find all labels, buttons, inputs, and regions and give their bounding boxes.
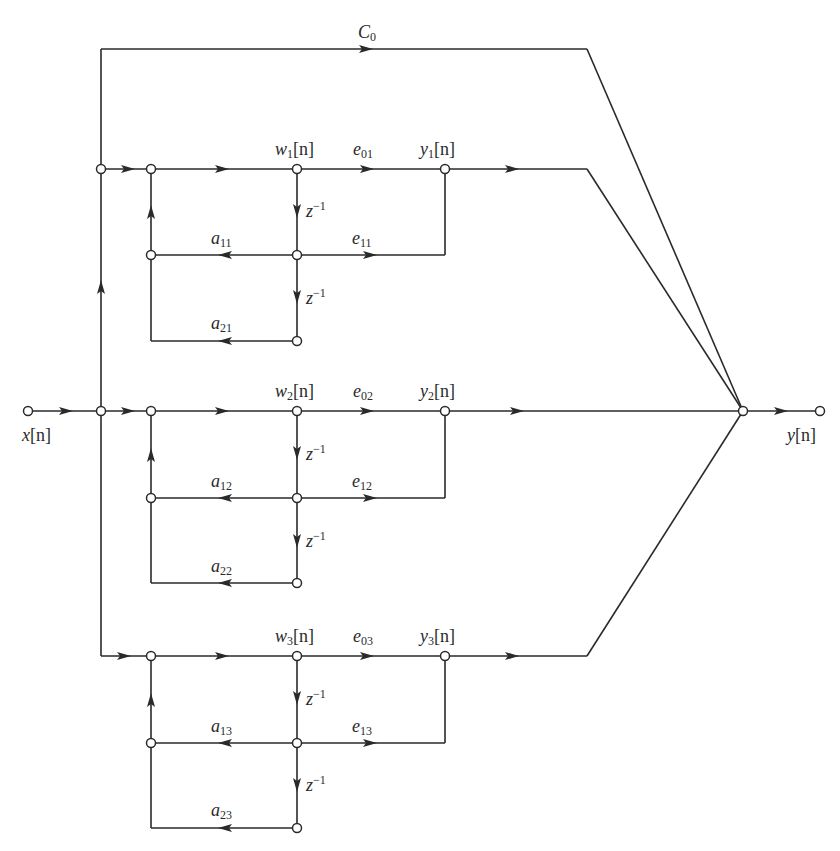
label-base: e <box>353 381 361 401</box>
label-sup: −1 <box>313 442 326 456</box>
delay-node-23 <box>293 824 302 833</box>
y2-node <box>441 407 450 416</box>
label-base: e <box>353 139 361 159</box>
label-a22: a22 <box>211 557 232 577</box>
label-base: z <box>306 531 313 551</box>
label-e03: e03 <box>353 627 373 647</box>
w1-node <box>293 165 302 174</box>
label-a21: a21 <box>211 314 232 334</box>
label-y3: y3[n] <box>420 627 455 647</box>
w3-node <box>293 652 302 661</box>
label-arg: [n] <box>30 425 51 445</box>
label-base: y <box>420 381 428 401</box>
output-node <box>816 407 825 416</box>
label-arg: [n] <box>293 139 314 159</box>
label-base: w <box>275 626 287 646</box>
output-branch <box>743 407 820 415</box>
sum-node-3 <box>147 652 156 661</box>
label-arg: [n] <box>434 626 455 646</box>
label-w1: w1[n] <box>275 140 314 160</box>
label-y2: y2[n] <box>420 382 455 402</box>
label-base: w <box>275 381 287 401</box>
section-1 <box>101 165 743 411</box>
label-base: z <box>306 689 313 709</box>
label-e01: e01 <box>353 140 373 160</box>
label-base: a <box>211 228 220 248</box>
label-sub: 01 <box>361 147 373 161</box>
label-w2: w2[n] <box>275 382 314 402</box>
delay-node-13 <box>293 739 302 748</box>
label-base: z <box>306 201 313 221</box>
label-base: e <box>353 626 361 646</box>
section-3 <box>101 411 743 832</box>
label-sub: 0 <box>370 30 376 44</box>
delay-node-22 <box>293 579 302 588</box>
sum-node-1 <box>147 165 156 174</box>
label-a23: a23 <box>211 801 232 821</box>
label-base: e <box>352 471 360 491</box>
label-a12: a12 <box>211 472 232 492</box>
label-sub: 21 <box>220 321 232 335</box>
label-e13: e13 <box>352 717 372 737</box>
label-arg: [n] <box>434 381 455 401</box>
input-branch <box>28 407 101 415</box>
label-sub: 03 <box>361 634 373 648</box>
label-sub: 13 <box>360 724 372 738</box>
label-input: x[n] <box>22 426 51 444</box>
y1-node <box>441 165 450 174</box>
label-arg: [n] <box>795 425 816 445</box>
label-sub: 02 <box>361 389 373 403</box>
label-z1-1: z−1 <box>306 200 326 220</box>
label-w3: w3[n] <box>275 627 314 647</box>
label-base: a <box>211 556 220 576</box>
label-z1-2: z−1 <box>306 287 326 307</box>
label-sub: 12 <box>360 479 372 493</box>
label-sup: −1 <box>313 687 326 701</box>
fb-node-13 <box>147 739 156 748</box>
label-a13: a13 <box>211 717 232 737</box>
label-sub: 22 <box>220 564 232 578</box>
signal-flow-graph <box>0 0 840 851</box>
label-base: a <box>211 716 220 736</box>
delay-node-21 <box>293 337 302 346</box>
label-sup: −1 <box>313 286 326 300</box>
fb-node-11 <box>147 251 156 260</box>
label-e12: e12 <box>352 472 372 492</box>
label-output: y[n] <box>787 426 816 444</box>
distribution-trunk <box>97 49 105 656</box>
label-arg: [n] <box>434 139 455 159</box>
label-base: y <box>420 626 428 646</box>
sum-node-2 <box>147 407 156 416</box>
label-arg: [n] <box>293 626 314 646</box>
label-base: C <box>358 22 370 42</box>
label-sup: −1 <box>313 529 326 543</box>
label-base: z <box>306 775 313 795</box>
label-a11: a11 <box>211 229 232 249</box>
label-c0: C0 <box>358 23 376 43</box>
label-sub: 11 <box>360 236 372 250</box>
label-z3-2: z−1 <box>306 774 326 794</box>
label-base: w <box>275 139 287 159</box>
label-z2-1: z−1 <box>306 443 326 463</box>
direct-path-c0 <box>101 45 743 411</box>
label-base: e <box>352 228 360 248</box>
label-sup: −1 <box>313 773 326 787</box>
label-base: a <box>211 471 220 491</box>
label-base: e <box>352 716 360 736</box>
label-sup: −1 <box>313 199 326 213</box>
input-node <box>24 407 33 416</box>
label-y1: y1[n] <box>420 140 455 160</box>
label-z2-2: z−1 <box>306 530 326 550</box>
label-arg: [n] <box>293 381 314 401</box>
split-node-2 <box>97 407 106 416</box>
delay-node-12 <box>293 494 302 503</box>
y3-node <box>441 652 450 661</box>
label-base: y <box>420 139 428 159</box>
label-base: a <box>211 313 220 333</box>
output-sum-node <box>739 407 748 416</box>
label-base: z <box>306 444 313 464</box>
label-base: y <box>787 425 795 445</box>
label-e11: e11 <box>352 229 372 249</box>
label-base: z <box>306 288 313 308</box>
label-z3-1: z−1 <box>306 688 326 708</box>
